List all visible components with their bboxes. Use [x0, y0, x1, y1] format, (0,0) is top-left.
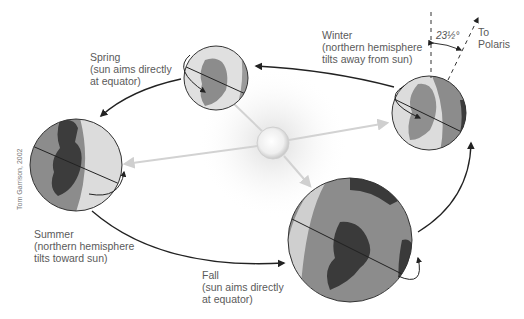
- label-fall-line2: (sun aims directly: [202, 281, 284, 293]
- label-winter: Winter (northern hemisphere tilts away f…: [322, 29, 422, 65]
- label-summer: Summer (northern hemisphere tilts toward…: [34, 228, 134, 264]
- sun-ball: [257, 127, 289, 159]
- label-polaris-line1: To: [478, 26, 510, 38]
- label-fall: Fall (sun aims directly at equator): [202, 269, 284, 305]
- label-polaris: To Polaris: [478, 26, 510, 50]
- label-spring-line2: (sun aims directly: [90, 63, 172, 75]
- label-fall-title: Fall: [202, 269, 284, 281]
- label-fall-line3: at equator): [202, 293, 284, 305]
- axial-tilt-label: 23½°: [436, 30, 459, 41]
- label-summer-line2: (northern hemisphere: [34, 240, 134, 252]
- label-winter-line2: (northern hemisphere: [322, 41, 422, 53]
- axis-indicator: [431, 12, 478, 80]
- label-summer-line3: tilts toward sun): [34, 252, 134, 264]
- label-winter-title: Winter: [322, 29, 422, 41]
- label-summer-title: Summer: [34, 228, 134, 240]
- label-spring-title: Spring: [90, 51, 172, 63]
- label-winter-line3: tilts away from sun): [322, 53, 422, 65]
- orbit-fall-to-winter: [418, 143, 471, 232]
- image-credit: Tom Garrison, 2002: [16, 149, 23, 210]
- label-spring-line3: at equator): [90, 75, 172, 87]
- label-polaris-line2: Polaris: [478, 38, 510, 50]
- label-spring: Spring (sun aims directly at equator): [90, 51, 172, 87]
